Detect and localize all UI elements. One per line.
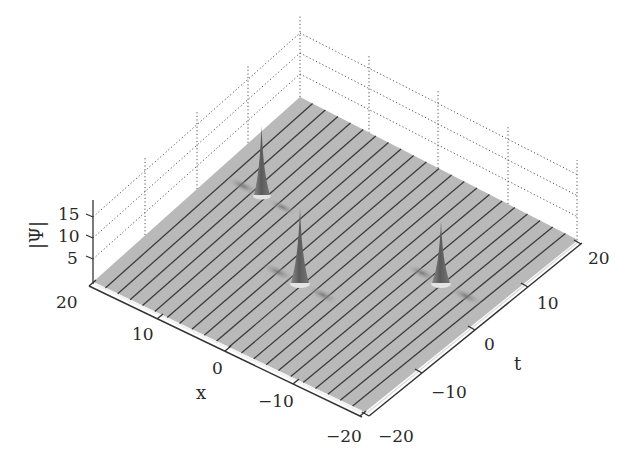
t-tick-20: 20 (588, 250, 610, 267)
x-axis-title: x (196, 384, 206, 402)
t-tick-10: 10 (537, 295, 559, 312)
z-tick-5: 5 (67, 250, 78, 267)
x-tick-10: 10 (132, 326, 154, 343)
z-tick-10: 10 (58, 228, 80, 245)
z-axis-title: |Ψ| (28, 221, 46, 249)
surface-plot (0, 0, 642, 464)
x-tick-0: 0 (212, 360, 223, 377)
x-tick-m20: −20 (326, 428, 362, 445)
t-tick-m10: −10 (431, 384, 467, 401)
x-tick-m10: −10 (258, 393, 294, 410)
t-tick-0: 0 (484, 336, 495, 353)
surface-plane (93, 97, 578, 412)
x-tick-20: 20 (56, 294, 78, 311)
z-tick-15: 15 (58, 206, 80, 223)
t-axis-title: t (514, 355, 521, 373)
z-axis (86, 200, 93, 284)
t-tick-m20: −20 (378, 428, 414, 445)
